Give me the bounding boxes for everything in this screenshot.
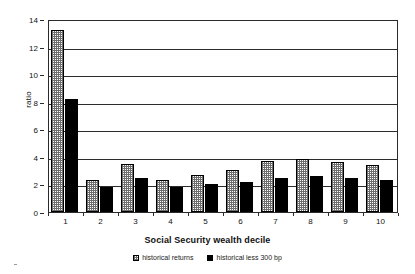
y-tick-mark [40,20,44,21]
x-tick-label: 4 [158,217,184,226]
bar [345,178,358,212]
bar-group [259,21,294,212]
x-tick-mark [363,213,364,216]
x-tick-label: 9 [333,217,359,226]
bar [170,187,183,213]
y-tick-label: 10 [29,71,38,80]
legend-swatch-icon [133,255,139,261]
x-tick-label: 5 [193,217,219,226]
x-tick-mark [398,213,399,216]
bar [156,180,169,212]
y-tick-mark [40,48,44,49]
y-tick-label: 14 [29,16,38,25]
bar [380,180,393,212]
y-tick-label: 6 [34,126,38,135]
bar [226,170,239,212]
y-tick-label: 8 [34,98,38,107]
y-tick-mark [40,103,44,104]
x-tick-mark [223,213,224,216]
bar-group [119,21,154,212]
scan-artifact [14,264,17,265]
bar-group [154,21,189,212]
x-tick-mark [118,213,119,216]
x-tick-label: 8 [298,217,324,226]
y-tick-mark [40,158,44,159]
x-axis-title: Social Security wealth decile [0,235,415,245]
x-tick-label: 2 [88,217,114,226]
bars-layer [49,21,397,212]
bar-group [49,21,84,212]
bar-group [364,21,399,212]
y-tick-mark [40,185,44,186]
x-tick-label: 10 [368,217,394,226]
bar [205,184,218,212]
x-tick-mark [293,213,294,216]
bar [275,178,288,212]
x-tick-label: 6 [228,217,254,226]
x-tick-mark [188,213,189,216]
bar [191,175,204,212]
bar [135,178,148,212]
x-tick-mark [153,213,154,216]
bar-group [189,21,224,212]
y-tick-label: 4 [34,153,38,162]
bar-group [224,21,259,212]
y-tick-mark [40,130,44,131]
bar [296,159,309,212]
bar [261,161,274,212]
bar-group [294,21,329,212]
legend-label: historical less 300 bp [216,254,281,261]
bar [51,30,64,212]
bar [65,99,78,212]
x-tick-label: 3 [123,217,149,226]
legend-label: historical returns [142,254,193,261]
x-axis-ticks: 12345678910 [48,215,398,229]
legend-swatch-icon [207,255,213,261]
bar [100,187,113,213]
bar [366,165,379,212]
y-tick-label: 12 [29,43,38,52]
y-tick-mark [40,75,44,76]
bar [310,176,323,212]
legend-item-historical-less-300-bp: historical less 300 bp [207,254,281,261]
legend-item-historical-returns: historical returns [133,254,193,261]
bar [240,182,253,212]
bar [86,180,99,212]
x-tick-mark [48,213,49,216]
y-tick-mark [40,213,44,214]
x-tick-mark [258,213,259,216]
y-axis-ticks: 02468101214 [0,20,44,213]
bar [331,162,344,212]
bar-chart: ratio 02468101214 12345678910 Social Sec… [0,0,415,274]
bar [121,164,134,212]
plot-area [48,20,398,213]
chart-legend: historical returns historical less 300 b… [0,254,415,261]
x-tick-mark [328,213,329,216]
x-tick-mark [83,213,84,216]
x-tick-label: 7 [263,217,289,226]
bar-group [84,21,119,212]
x-tick-label: 1 [53,217,79,226]
bar-group [329,21,364,212]
y-tick-label: 0 [34,209,38,218]
y-tick-label: 2 [34,181,38,190]
